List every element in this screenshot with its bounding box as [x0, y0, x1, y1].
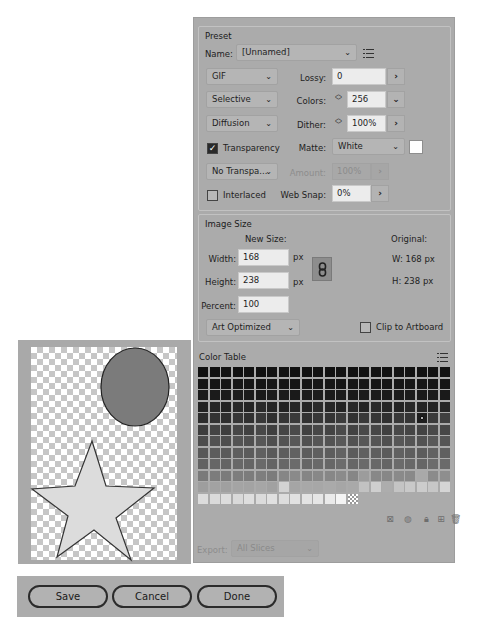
color-cell[interactable] [244, 471, 254, 481]
color-cell[interactable] [382, 367, 392, 377]
color-cell[interactable] [198, 425, 208, 435]
color-cell[interactable] [382, 448, 392, 458]
dither-input[interactable]: 100% [347, 115, 386, 132]
color-cell[interactable] [405, 367, 415, 377]
color-cell[interactable] [394, 390, 404, 400]
color-cell[interactable] [267, 402, 277, 412]
color-cell[interactable] [198, 402, 208, 412]
color-cell[interactable] [233, 494, 243, 504]
color-cell[interactable] [348, 367, 358, 377]
color-cell[interactable] [279, 471, 289, 481]
color-cell[interactable] [336, 471, 346, 481]
color-cell[interactable] [336, 367, 346, 377]
color-cell[interactable] [371, 425, 381, 435]
color-cell[interactable] [359, 459, 369, 469]
color-cell[interactable] [290, 425, 300, 435]
color-cell[interactable] [279, 390, 289, 400]
matte-color-swatch[interactable] [409, 140, 423, 154]
color-cell[interactable] [348, 482, 358, 492]
color-cell[interactable] [210, 482, 220, 492]
color-cell[interactable] [336, 459, 346, 469]
color-cell[interactable] [440, 436, 450, 446]
color-cell[interactable] [417, 471, 427, 481]
color-cell[interactable] [382, 471, 392, 481]
color-cell[interactable] [221, 471, 231, 481]
color-cell[interactable] [440, 413, 450, 423]
color-cell[interactable] [417, 436, 427, 446]
color-cell[interactable] [405, 459, 415, 469]
done-button[interactable]: Done [197, 585, 277, 608]
dither-slider-button[interactable]: › [387, 115, 405, 132]
color-cell[interactable] [256, 425, 266, 435]
color-cell[interactable] [336, 390, 346, 400]
color-cell[interactable] [267, 367, 277, 377]
color-cell[interactable] [221, 482, 231, 492]
color-cell[interactable] [256, 379, 266, 389]
color-cell[interactable] [313, 482, 323, 492]
color-cell[interactable] [279, 379, 289, 389]
color-table-menu-icon[interactable] [437, 353, 448, 362]
matte-dropdown[interactable]: White ⌄ [332, 138, 405, 155]
lossy-input[interactable]: 0 [332, 68, 386, 85]
color-cell[interactable] [210, 367, 220, 377]
color-cell[interactable] [210, 425, 220, 435]
color-cell[interactable] [210, 471, 220, 481]
color-cell[interactable] [440, 379, 450, 389]
color-cell[interactable] [394, 379, 404, 389]
color-cell[interactable] [336, 402, 346, 412]
color-cell[interactable] [244, 494, 254, 504]
color-cell[interactable] [210, 494, 220, 504]
percent-input[interactable]: 100 [238, 296, 289, 313]
color-cell[interactable] [428, 379, 438, 389]
color-cell[interactable] [256, 471, 266, 481]
color-cell[interactable] [336, 379, 346, 389]
color-cell[interactable] [359, 402, 369, 412]
color-cell[interactable] [359, 379, 369, 389]
transparency-dither-dropdown[interactable]: No Transpa... ⌄ [206, 163, 278, 180]
color-cell[interactable] [290, 379, 300, 389]
color-cell[interactable] [313, 448, 323, 458]
color-cell[interactable] [267, 482, 277, 492]
color-cell[interactable] [233, 459, 243, 469]
color-cell[interactable] [221, 390, 231, 400]
color-cell[interactable] [279, 482, 289, 492]
color-cell[interactable] [348, 379, 358, 389]
color-cell[interactable] [359, 367, 369, 377]
color-cell[interactable] [233, 436, 243, 446]
color-cell[interactable] [428, 425, 438, 435]
color-cell[interactable] [348, 413, 358, 423]
color-cell[interactable] [325, 413, 335, 423]
color-cell[interactable] [382, 390, 392, 400]
color-cell[interactable] [359, 482, 369, 492]
transparency-checkbox[interactable]: ✓ [207, 143, 218, 154]
color-cell[interactable] [348, 402, 358, 412]
color-cell[interactable] [267, 494, 277, 504]
color-cell[interactable] [233, 367, 243, 377]
color-cell[interactable] [325, 402, 335, 412]
color-cell[interactable] [267, 471, 277, 481]
color-cell[interactable] [290, 459, 300, 469]
color-cell[interactable] [336, 482, 346, 492]
color-cell[interactable] [256, 413, 266, 423]
color-cell[interactable] [233, 471, 243, 481]
clip-to-artboard-checkbox[interactable] [360, 322, 371, 333]
websnap-slider-button[interactable]: › [371, 185, 389, 202]
color-cell[interactable] [313, 494, 323, 504]
color-cell[interactable] [359, 448, 369, 458]
color-cell[interactable] [210, 402, 220, 412]
color-cell[interactable] [394, 471, 404, 481]
color-cell[interactable] [394, 436, 404, 446]
cancel-button[interactable]: Cancel [112, 585, 192, 608]
color-cell[interactable] [313, 425, 323, 435]
color-cell[interactable] [371, 448, 381, 458]
color-cell[interactable] [244, 482, 254, 492]
color-cell[interactable] [244, 425, 254, 435]
color-cell[interactable] [428, 402, 438, 412]
color-cell[interactable] [405, 425, 415, 435]
color-cell[interactable] [302, 471, 312, 481]
color-cell[interactable] [428, 459, 438, 469]
color-cell[interactable] [256, 402, 266, 412]
color-cell[interactable] [256, 482, 266, 492]
color-cell[interactable] [382, 413, 392, 423]
color-cell[interactable] [290, 436, 300, 446]
